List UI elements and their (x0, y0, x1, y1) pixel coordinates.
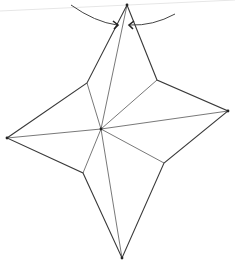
crease-center-bottom (101, 129, 122, 258)
crease-center-lower_right_inner (101, 129, 164, 163)
crease-center-lower_left_inner (83, 129, 101, 173)
reference-guide-line (0, 0, 235, 11)
crease-center-top (101, 5, 127, 129)
vertex-right (227, 110, 230, 113)
star-outline (7, 5, 228, 258)
vertex-top (126, 4, 129, 7)
right-fold-arrow-arc (130, 14, 175, 25)
vertex-points (6, 4, 230, 260)
crease-lines (7, 5, 228, 258)
left-fold-arrow-arc (71, 5, 117, 25)
crease-center-left (7, 129, 101, 138)
vertex-left (6, 137, 9, 140)
star-fold-diagram (0, 0, 235, 261)
crease-center-upper_left_inner (87, 83, 101, 129)
vertex-center (100, 128, 103, 131)
vertex-bottom (121, 257, 124, 260)
